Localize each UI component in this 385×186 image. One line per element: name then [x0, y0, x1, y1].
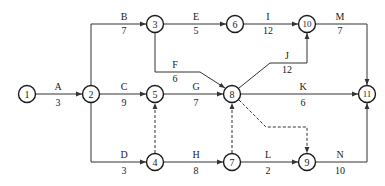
node-5: 5 [147, 86, 164, 103]
node-label-8: 8 [230, 89, 235, 100]
label-activity-k: K [299, 81, 307, 92]
node-label-5: 5 [153, 89, 158, 100]
label-duration-e: 5 [194, 25, 199, 36]
node-label-6: 6 [233, 19, 238, 30]
node-label-2: 2 [89, 89, 94, 100]
node-label-4: 4 [153, 157, 158, 168]
label-duration-l: 2 [266, 165, 271, 176]
label-duration-k: 6 [301, 97, 306, 108]
arrow-activity-f [155, 33, 225, 88]
dummy-arrow-8-9 [239, 100, 307, 153]
node-9: 9 [299, 154, 316, 171]
label-activity-d: D [120, 149, 127, 160]
node-2: 2 [83, 86, 100, 103]
label-activity-g: G [192, 81, 199, 92]
label-duration-m: 7 [338, 25, 343, 36]
node-label-7: 7 [230, 157, 235, 168]
label-activity-b: B [121, 11, 128, 22]
label-activity-c: C [121, 81, 128, 92]
label-activity-l: L [265, 149, 271, 160]
network-diagram: A 3 B 7 C 9 D 3 E 5 F 6 G 7 H 8 I 12 J 1… [0, 0, 385, 186]
label-activity-i: I [266, 11, 269, 22]
label-activity-a: A [54, 81, 62, 92]
node-1: 1 [19, 86, 36, 103]
label-duration-f: 6 [173, 73, 178, 84]
node-label-3: 3 [153, 19, 158, 30]
node-6: 6 [227, 16, 244, 33]
node-8: 8 [224, 86, 241, 103]
label-duration-j: 12 [282, 64, 292, 75]
network-diagram-svg: A 3 B 7 C 9 D 3 E 5 F 6 G 7 H 8 I 12 J 1… [0, 0, 385, 186]
label-duration-n: 10 [335, 165, 345, 176]
node-label-9: 9 [305, 157, 310, 168]
label-duration-g: 7 [194, 97, 199, 108]
label-duration-d: 3 [122, 165, 127, 176]
label-duration-i: 12 [263, 25, 273, 36]
label-activity-h: H [192, 149, 199, 160]
label-duration-h: 8 [194, 165, 199, 176]
label-activity-n: N [336, 149, 343, 160]
node-4: 4 [147, 154, 164, 171]
arrow-activity-j [239, 33, 307, 88]
node-label-10: 10 [303, 19, 313, 29]
label-activity-e: E [193, 11, 199, 22]
node-label-1: 1 [25, 89, 30, 100]
node-7: 7 [224, 154, 241, 171]
node-11: 11 [359, 86, 376, 103]
label-duration-a: 3 [56, 97, 61, 108]
arrow-activity-b [91, 24, 146, 85]
arrow-activity-d [91, 103, 146, 162]
label-activity-f: F [172, 59, 178, 70]
label-activity-m: M [336, 11, 345, 22]
node-3: 3 [147, 16, 164, 33]
label-activity-j: J [285, 50, 289, 61]
label-duration-b: 7 [122, 25, 127, 36]
label-duration-c: 9 [122, 97, 127, 108]
node-10: 10 [299, 16, 316, 33]
node-label-11: 11 [363, 89, 372, 99]
